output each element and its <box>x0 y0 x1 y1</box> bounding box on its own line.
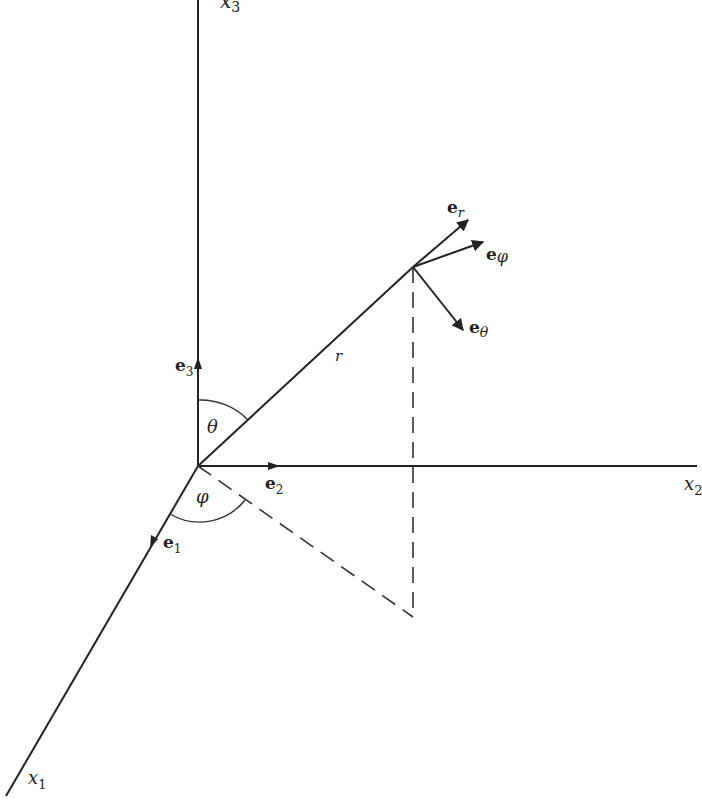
x2-axis-label: x2 <box>684 473 702 498</box>
e3-label: e3 <box>175 355 193 379</box>
theta-arc <box>198 400 248 420</box>
ephi-vector <box>413 242 483 267</box>
x3-axis-label: x3 <box>220 0 240 15</box>
etheta-vector <box>413 267 463 330</box>
x1-axis <box>6 466 198 796</box>
phi-label: φ <box>196 486 209 507</box>
ephi-label: eφ <box>486 244 509 266</box>
e1-label: e1 <box>163 532 181 556</box>
e3-arrowhead <box>194 357 202 369</box>
er-vector <box>413 220 468 267</box>
e2-arrowhead <box>268 462 280 470</box>
x1-axis-label: x1 <box>28 767 46 792</box>
e2-label: e2 <box>265 473 283 497</box>
etheta-label: eθ <box>469 317 489 340</box>
projection-horizontal <box>198 466 413 617</box>
theta-label: θ <box>207 416 218 437</box>
er-label: er <box>447 197 465 220</box>
radius-line <box>198 267 413 466</box>
spherical-coordinates-diagram: x3 x2 x1 e3 e2 e1 er eφ eθ θ φ r <box>0 0 702 808</box>
radius-label: r <box>335 347 343 365</box>
